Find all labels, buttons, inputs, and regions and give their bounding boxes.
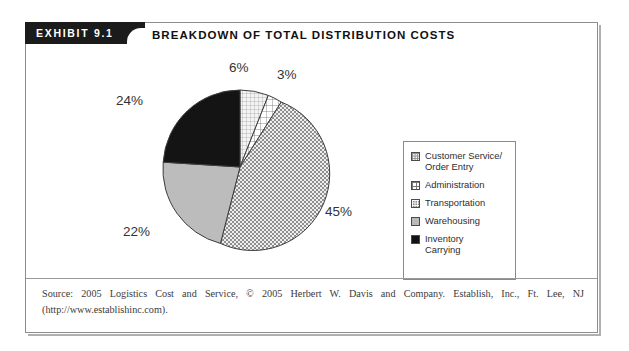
tab-notch-decoration (127, 22, 145, 44)
pie-slice-inventory-carrying (163, 90, 240, 167)
legend-item-label: Administration (425, 179, 484, 190)
source-note: Source: 2005 Logistics Cost and Service,… (42, 286, 584, 317)
pie-chart: 6% 3% 45% 22% 24% Customer Service/ Orde… (26, 45, 597, 277)
legend-item-label: Transportation (425, 197, 485, 208)
footer-divider (26, 278, 597, 279)
label-inventory: 24% (116, 93, 143, 108)
legend-item-label: Inventory Carrying (425, 233, 464, 255)
solid-light-gray-swatch-icon (411, 217, 420, 226)
dotted-light-swatch-icon (411, 152, 420, 161)
legend-item-warehousing: Warehousing (411, 215, 515, 226)
page-title: BREAKDOWN OF TOTAL DISTRIBUTION COSTS (152, 29, 455, 41)
exhibit-number-label: EXHIBIT 9.1 (36, 27, 114, 39)
frame-shadow-right (599, 25, 601, 334)
legend-item-label: Customer Service/ Order Entry (425, 150, 502, 172)
solid-black-swatch-icon (411, 235, 420, 244)
legend-item-transportation: Transportation (411, 197, 515, 208)
grid-crosshatch-swatch-icon (411, 181, 420, 190)
exhibit-number-tab: EXHIBIT 9.1 (25, 22, 133, 44)
legend-item-administration: Administration (411, 179, 515, 190)
label-administration: 3% (277, 67, 297, 82)
legend-item-inventory-carrying: Inventory Carrying (411, 233, 515, 255)
label-transportation: 45% (325, 204, 352, 219)
legend-item-label: Warehousing (425, 215, 480, 226)
checkered-gray-swatch-icon (411, 199, 420, 208)
label-customer-service: 6% (229, 60, 249, 75)
frame-shadow-bottom (28, 334, 601, 336)
label-warehousing: 22% (123, 224, 150, 239)
legend-item-customer-service: Customer Service/ Order Entry (411, 150, 515, 172)
chart-legend: Customer Service/ Order Entry Administra… (403, 141, 516, 280)
